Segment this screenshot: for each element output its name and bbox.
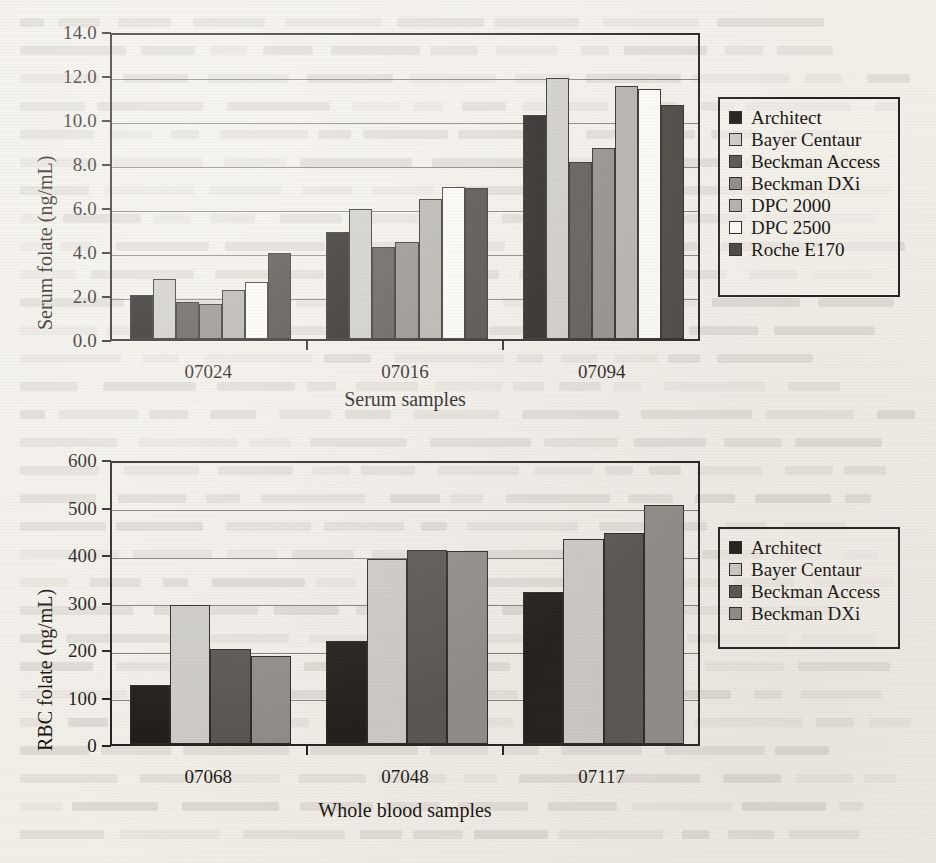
bar — [395, 242, 418, 339]
bar — [349, 209, 372, 339]
rbc-chart-legend: ArchitectBayer CentaurBeckman AccessBeck… — [718, 527, 900, 649]
legend-item-label: Beckman Access — [751, 152, 880, 171]
y-axis-tick-label: 4.0 — [12, 243, 97, 262]
y-axis-tick — [102, 650, 111, 652]
gridline — [112, 123, 698, 124]
legend-swatch-icon — [729, 199, 742, 212]
legend-item-label: Beckman Access — [751, 582, 880, 601]
bar — [153, 279, 176, 340]
y-axis-tick-label: 14.0 — [12, 23, 97, 42]
bar — [563, 539, 603, 744]
y-axis-tick-label: 8.0 — [12, 155, 97, 174]
bar — [569, 162, 592, 339]
bar — [407, 550, 447, 744]
y-axis-tick-label: 0.0 — [12, 331, 97, 350]
bar — [419, 199, 442, 339]
legend-item: Architect — [729, 106, 888, 128]
y-axis-tick-label: 6.0 — [12, 199, 97, 218]
legend-item: DPC 2500 — [729, 216, 888, 238]
legend-swatch-icon — [729, 243, 742, 256]
x-axis-category-label: 07117 — [532, 766, 672, 788]
serum-chart-legend: ArchitectBayer CentaurBeckman AccessBeck… — [718, 97, 900, 297]
bar — [638, 89, 661, 339]
bar — [523, 592, 563, 744]
bar — [442, 187, 465, 339]
x-axis-title-rbc: Whole blood samples — [230, 799, 580, 822]
bar — [326, 641, 366, 744]
y-axis-tick — [102, 252, 111, 254]
x-axis-category-label: 07016 — [335, 361, 475, 383]
y-axis-tick-label: 100 — [12, 689, 97, 708]
bar — [523, 115, 546, 339]
y-axis-tick — [102, 120, 111, 122]
y-axis-tick — [102, 555, 111, 557]
y-axis-tick — [102, 460, 111, 462]
serum-folate-plot-area — [110, 33, 700, 341]
legend-swatch-icon — [729, 177, 742, 190]
y-axis-title-rbc: RBC folate (ng/mL) — [34, 589, 57, 751]
legend-item-label: Bayer Centaur — [751, 560, 861, 579]
y-axis-tick-label: 200 — [12, 641, 97, 660]
legend-item-label: Beckman DXi — [751, 174, 860, 193]
y-axis-tick — [102, 508, 111, 510]
legend-item-label: Architect — [751, 538, 822, 557]
bar — [465, 188, 488, 339]
y-axis-tick-label: 400 — [12, 546, 97, 565]
bar — [592, 148, 615, 339]
legend-item-label: DPC 2500 — [751, 218, 831, 237]
bar — [615, 86, 638, 339]
legend-swatch-icon — [729, 585, 742, 598]
gridline — [112, 510, 698, 511]
bar — [268, 253, 291, 339]
legend-swatch-icon — [729, 607, 742, 620]
y-axis-tick-label: 2.0 — [12, 287, 97, 306]
rbc-folate-plot-area — [110, 461, 700, 746]
legend-item: Beckman Access — [729, 150, 888, 172]
x-axis-tick — [306, 341, 308, 350]
y-axis-tick-label: 12.0 — [12, 67, 97, 86]
legend-item: Bayer Centaur — [729, 128, 888, 150]
legend-item: Beckman DXi — [729, 172, 888, 194]
x-axis-category-label: 07024 — [138, 361, 278, 383]
x-axis-category-label: 07094 — [532, 361, 672, 383]
bar — [130, 295, 153, 339]
y-axis-tick — [102, 603, 111, 605]
y-axis-tick — [102, 164, 111, 166]
y-axis-tick-label: 300 — [12, 594, 97, 613]
y-axis-tick-label: 500 — [12, 499, 97, 518]
serum-folate-figure: Serum folate (ng/mL) Serum samples Archi… — [0, 0, 936, 431]
y-axis-tick — [102, 208, 111, 210]
bar — [326, 232, 349, 339]
legend-swatch-icon — [729, 541, 742, 554]
x-axis-title-serum: Serum samples — [255, 388, 555, 411]
y-axis-tick — [102, 32, 111, 34]
bar — [372, 247, 395, 339]
x-axis-category-label: 07068 — [138, 766, 278, 788]
legend-swatch-icon — [729, 111, 742, 124]
y-axis-tick — [102, 340, 111, 342]
legend-item-label: Bayer Centaur — [751, 130, 861, 149]
bar — [251, 656, 291, 744]
bar — [604, 533, 644, 744]
legend-item: DPC 2000 — [729, 194, 888, 216]
rbc-folate-figure: RBC folate (ng/mL) Whole blood samples A… — [0, 431, 936, 863]
y-axis-tick — [102, 698, 111, 700]
bar — [210, 649, 250, 744]
legend-item-label: Beckman DXi — [751, 604, 860, 623]
legend-swatch-icon — [729, 155, 742, 168]
legend-item: Beckman DXi — [729, 602, 888, 624]
legend-swatch-icon — [729, 563, 742, 576]
y-axis-tick — [102, 76, 111, 78]
legend-item: Architect — [729, 536, 888, 558]
x-axis-category-label: 07048 — [335, 766, 475, 788]
bar — [245, 282, 268, 339]
legend-item-label: Roche E170 — [751, 240, 844, 259]
bar — [130, 685, 170, 744]
legend-item: Beckman Access — [729, 580, 888, 602]
x-axis-tick — [502, 746, 504, 755]
y-axis-tick — [102, 745, 111, 747]
legend-item-label: DPC 2000 — [751, 196, 831, 215]
gridline — [112, 79, 698, 80]
x-axis-tick — [306, 746, 308, 755]
legend-swatch-icon — [729, 133, 742, 146]
